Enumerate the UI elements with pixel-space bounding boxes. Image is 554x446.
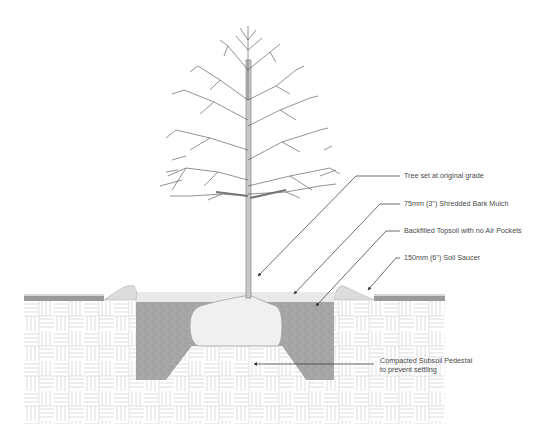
grass-left bbox=[24, 294, 104, 301]
main-branch-right bbox=[250, 190, 286, 198]
grass-right bbox=[374, 294, 445, 301]
saucer-left bbox=[104, 285, 137, 300]
label-tree-grade: Tree set at original grade bbox=[404, 171, 484, 180]
leader-saucer bbox=[368, 258, 400, 290]
tree-planting-diagram bbox=[0, 0, 554, 446]
leader-mulch bbox=[294, 204, 400, 294]
saucer-right bbox=[334, 286, 374, 300]
label-topsoil: Backfilled Topsoil with no Air Pockets bbox=[404, 226, 522, 235]
label-saucer: 150mm (6") Soil Saucer bbox=[404, 253, 480, 262]
label-pedestal-line1: Compacted Subsoil Pedestal bbox=[380, 356, 472, 365]
label-pedestal-line2: to prevent settling bbox=[380, 365, 472, 374]
label-pedestal: Compacted Subsoil Pedestal to prevent se… bbox=[380, 356, 472, 374]
label-mulch: 75mm (3") Shredded Bark Mulch bbox=[404, 199, 508, 208]
tree-trunk bbox=[246, 60, 251, 298]
